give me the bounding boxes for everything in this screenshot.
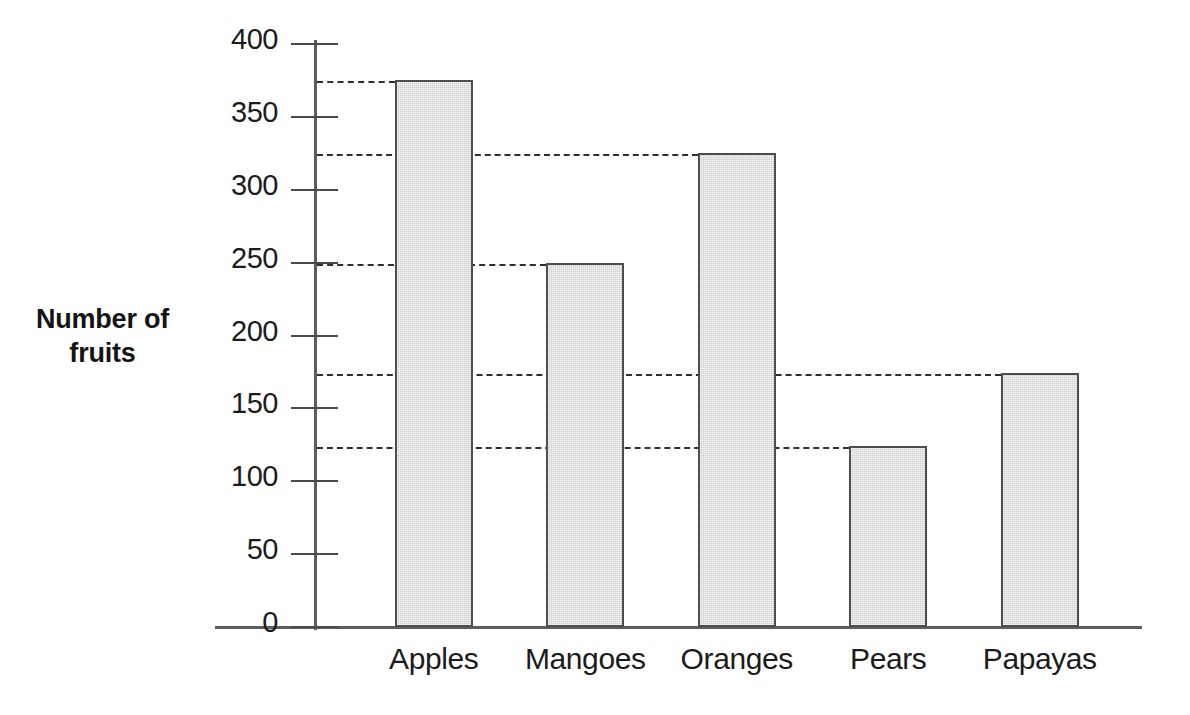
y-tick-50 <box>291 553 338 555</box>
y-tick-350 <box>291 116 338 118</box>
y-tick-label-0: 0 <box>200 606 278 639</box>
x-label-pears: Pears <box>813 642 965 676</box>
x-label-mangoes: Mangoes <box>510 642 662 676</box>
y-tick-200 <box>291 335 338 337</box>
y-tick-label-250: 250 <box>200 242 278 275</box>
bar-chart: Number of fruits 05010015020025030035040… <box>0 0 1190 715</box>
bar-apples <box>395 80 473 627</box>
bar-oranges <box>698 153 776 627</box>
y-tick-label-400: 400 <box>200 23 278 56</box>
bar-pears <box>849 446 927 627</box>
y-tick-0 <box>291 626 338 628</box>
y-tick-150 <box>291 407 338 409</box>
y-tick-label-50: 50 <box>200 533 278 566</box>
y-tick-300 <box>291 189 338 191</box>
leader-line-apples <box>317 81 395 83</box>
y-tick-label-200: 200 <box>200 315 278 348</box>
leader-line-oranges <box>317 154 698 156</box>
y-tick-label-350: 350 <box>200 96 278 129</box>
y-tick-label-100: 100 <box>200 460 278 493</box>
y-tick-label-150: 150 <box>200 387 278 420</box>
x-label-oranges: Oranges <box>661 642 813 676</box>
plot-area: 050100150200250300350400 ApplesMangoesOr… <box>0 0 1190 715</box>
x-label-apples: Apples <box>358 642 510 676</box>
bar-papayas <box>1001 373 1079 627</box>
bar-mangoes <box>546 263 624 627</box>
y-tick-400 <box>291 43 338 45</box>
x-label-papayas: Papayas <box>964 642 1116 676</box>
y-tick-label-300: 300 <box>200 169 278 202</box>
y-tick-100 <box>291 480 338 482</box>
